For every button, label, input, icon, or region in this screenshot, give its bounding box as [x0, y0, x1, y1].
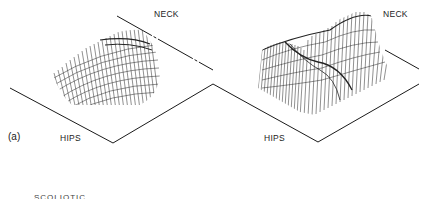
panel-label: (a): [8, 131, 20, 142]
right-neck-label: NECK: [383, 9, 408, 19]
surface-plots: [0, 0, 426, 199]
left-neck-label: NECK: [154, 9, 179, 19]
right-mesh-surface: [258, 12, 388, 118]
bottom-caption: SCOLIOTIC: [34, 193, 86, 199]
left-mesh-surface: [50, 28, 160, 112]
right-hips-label: HIPS: [264, 133, 285, 143]
left-base-plane: [10, 16, 213, 143]
left-hips-label: HIPS: [60, 133, 81, 143]
right-base-plane: [213, 50, 419, 142]
